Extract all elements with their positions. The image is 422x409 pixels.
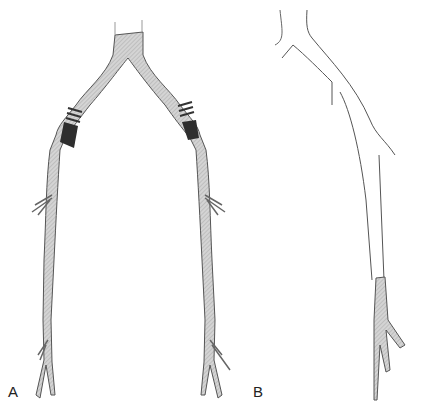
figure: A B: [0, 0, 422, 409]
panel-label-a: A: [8, 383, 18, 400]
panel-label-b: B: [253, 383, 263, 400]
panel-b-vessel: [275, 10, 405, 400]
vessel-diagram: [0, 0, 422, 409]
panel-a-vessels: [32, 20, 230, 398]
